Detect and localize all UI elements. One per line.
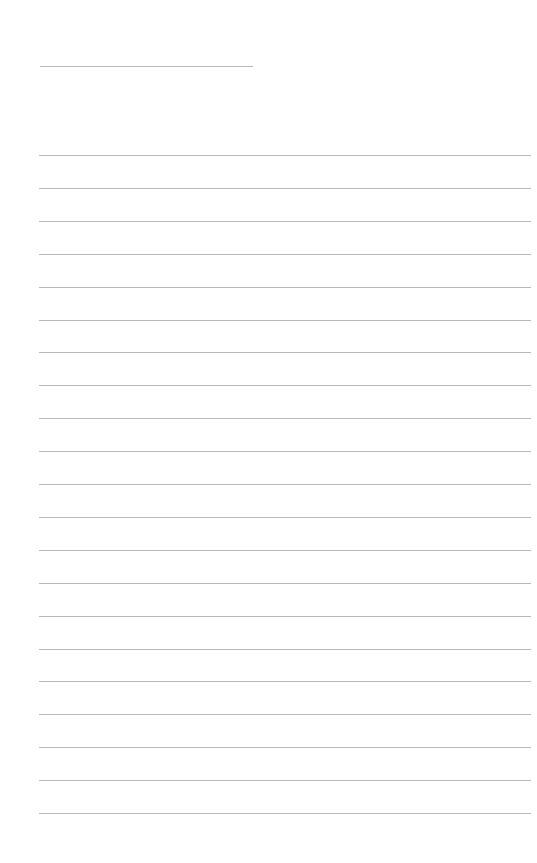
ruled-line [39, 418, 531, 419]
ruled-line [39, 155, 531, 156]
ruled-line [39, 320, 531, 321]
ruled-line [39, 385, 531, 386]
ruled-line [39, 352, 531, 353]
ruled-line [39, 583, 531, 584]
ruled-line [39, 451, 531, 452]
ruled-line [39, 550, 531, 551]
ruled-line [39, 714, 531, 715]
ruled-line [39, 254, 531, 255]
ruled-line [39, 517, 531, 518]
ruled-line [39, 747, 531, 748]
ruled-line [39, 649, 531, 650]
ruled-line [39, 287, 531, 288]
ruled-line [39, 813, 531, 814]
title-underline [40, 66, 253, 67]
ruled-line [39, 188, 531, 189]
ruled-line [39, 221, 531, 222]
ruled-line [39, 616, 531, 617]
ruled-line [39, 681, 531, 682]
ruled-line [39, 780, 531, 781]
ruled-line [39, 484, 531, 485]
